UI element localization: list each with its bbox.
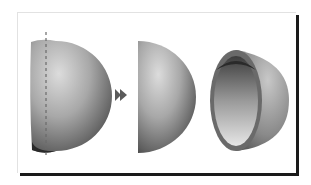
- diagram-canvas: [0, 0, 311, 185]
- fast-forward-arrow-icon: [115, 89, 127, 101]
- hollow-shell: [210, 50, 289, 151]
- hemisphere-with-cut-line: [30, 32, 112, 158]
- hemisphere-result: [138, 41, 196, 153]
